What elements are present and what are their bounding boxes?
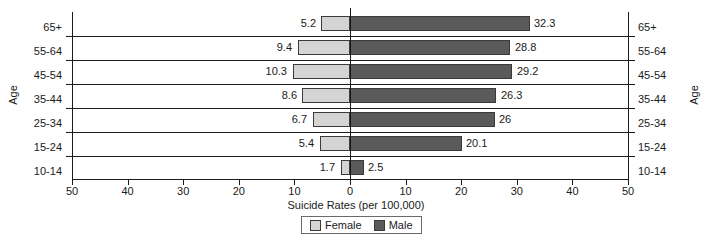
y-tick (629, 36, 635, 37)
y-axis-label-right: 25-34 (638, 117, 696, 129)
y-tick (629, 108, 635, 109)
axis-left-spine (72, 12, 73, 179)
bar-value-male: 32.3 (534, 16, 584, 31)
y-axis-label-left: 15-24 (4, 141, 62, 153)
bar-female (293, 64, 350, 79)
bar-female (313, 112, 350, 127)
bar-female (341, 160, 351, 175)
y-axis-label-left: 55-64 (4, 45, 62, 57)
y-tick (66, 108, 72, 109)
x-axis-tick-label: 0 (330, 185, 370, 197)
bar-male (350, 160, 364, 175)
legend-entry-male: Male (374, 219, 413, 231)
bar-value-male: 20.1 (466, 136, 516, 151)
y-tick (629, 156, 635, 157)
bar-male (350, 40, 510, 55)
y-tick (66, 132, 72, 133)
x-axis-title: Suicide Rates (per 100,000) (0, 199, 712, 211)
y-axis-label-left: 25-34 (4, 117, 62, 129)
y-axis-label-left: 65+ (4, 21, 62, 33)
bar-female (321, 16, 350, 31)
x-axis-tick-label: 50 (52, 185, 92, 197)
y-axis-label-right: 65+ (638, 21, 696, 33)
bar-value-male: 26.3 (501, 88, 551, 103)
legend-entry-female: Female (310, 219, 362, 231)
bar-value-female: 1.7 (290, 160, 335, 175)
y-tick (629, 132, 635, 133)
x-axis-tick-label: 30 (497, 185, 537, 197)
y-tick (629, 60, 635, 61)
bar-female (320, 136, 350, 151)
y-tick (66, 36, 72, 37)
x-axis-tick-label: 40 (108, 185, 148, 197)
legend: Female Male (301, 216, 422, 234)
legend-label-female: Female (325, 219, 362, 231)
legend-swatch-female (310, 220, 321, 231)
bar-value-female: 9.4 (247, 40, 292, 55)
bar-male (350, 112, 495, 127)
bar-male (350, 88, 496, 103)
y-axis-title-right: Age (688, 75, 700, 115)
x-axis-tick-label: 40 (552, 185, 592, 197)
axis-right-spine (628, 12, 629, 179)
bar-value-female: 8.6 (252, 88, 297, 103)
x-axis-tick-label: 50 (608, 185, 648, 197)
y-axis-label-left: 10-14 (4, 165, 62, 177)
suicide-rates-pyramid-chart: 5.2 32.3 9.4 28.8 10.3 29.2 8.6 26.3 (0, 0, 712, 249)
bar-value-male: 2.5 (368, 160, 418, 175)
bar-value-male: 28.8 (515, 40, 565, 55)
bar-male (350, 64, 512, 79)
bar-value-male: 29.2 (517, 64, 567, 79)
y-axis-label-right: 55-64 (638, 45, 696, 57)
bar-value-male: 26 (499, 112, 549, 127)
bar-value-female: 5.2 (271, 16, 316, 31)
bar-value-female: 6.7 (262, 112, 307, 127)
y-tick (66, 156, 72, 157)
center-zero-line (350, 8, 351, 182)
y-axis-label-right: 10-14 (638, 165, 696, 177)
bar-female (302, 88, 350, 103)
x-axis-tick-label: 10 (386, 185, 426, 197)
x-axis-tick-label: 20 (441, 185, 481, 197)
y-axis-title-left: Age (7, 75, 19, 115)
x-axis-tick-label: 20 (219, 185, 259, 197)
y-tick (629, 84, 635, 85)
y-tick (66, 84, 72, 85)
bar-value-female: 5.4 (269, 136, 314, 151)
bar-female (298, 40, 350, 55)
y-tick (66, 60, 72, 61)
x-axis-tick-label: 30 (163, 185, 203, 197)
legend-swatch-male (374, 220, 385, 231)
bar-male (350, 136, 462, 151)
y-axis-label-right: 15-24 (638, 141, 696, 153)
bar-value-female: 10.3 (237, 64, 287, 79)
bar-male (350, 16, 530, 31)
legend-label-male: Male (389, 219, 413, 231)
x-axis-tick-label: 10 (274, 185, 314, 197)
